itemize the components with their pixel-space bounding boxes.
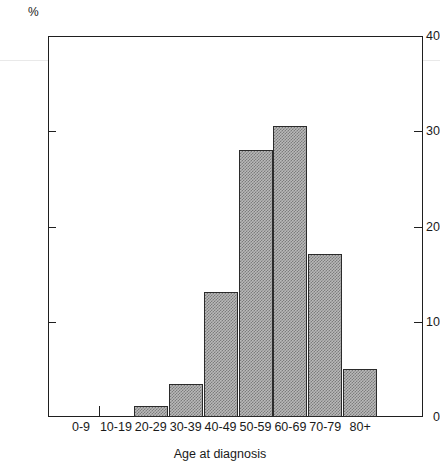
x-axis-tick-label: 20-29 <box>135 421 167 434</box>
x-axis-tick-label: 50-59 <box>240 421 272 434</box>
x-axis-tick-label: 70-79 <box>309 421 341 434</box>
bar-20-29 <box>134 406 168 417</box>
bar-series <box>0 0 440 468</box>
x-axis-tick-label: 60-69 <box>274 421 306 434</box>
x-axis-title: Age at diagnosis <box>0 448 440 461</box>
bar-70-79 <box>308 254 342 417</box>
bar-80plus <box>343 369 377 417</box>
bar-30-39 <box>169 384 203 417</box>
bar-50-59 <box>239 150 273 417</box>
bar-60-69 <box>273 126 307 417</box>
x-axis-tick-label: 30-39 <box>170 421 202 434</box>
histogram-figure: % 010203040 0-910-1920-2930-3940-4950-59… <box>0 0 440 468</box>
x-axis-tick-label: 80+ <box>350 421 371 434</box>
x-axis-tick-label: 0-9 <box>72 421 90 434</box>
bar-40-49 <box>204 292 238 417</box>
x-axis-tick-label: 10-19 <box>100 421 132 434</box>
x-axis-tick-label: 40-49 <box>205 421 237 434</box>
